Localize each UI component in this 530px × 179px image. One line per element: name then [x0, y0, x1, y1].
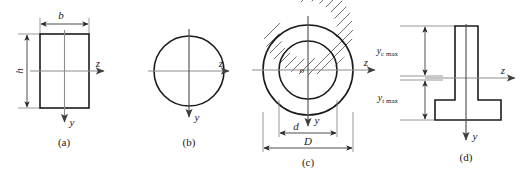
dimension-b-label: b — [58, 9, 64, 21]
dimension-d-label: d — [293, 120, 299, 132]
axis-z-label-a: z — [95, 57, 101, 69]
figure-sheet: b h z y (a) z — [0, 0, 530, 179]
panel-circle: z y (b) — [148, 29, 229, 149]
panel-rectangle: b h z y (a) — [13, 9, 104, 149]
panel-annulus: z y o d D (c) — [252, 0, 459, 169]
dimension-D-label: D — [303, 135, 312, 147]
axis-z-label-c: z — [363, 56, 369, 68]
axis-z-label-d: z — [500, 64, 506, 76]
dimension-yc-max-label: yc max — [376, 45, 399, 58]
dimension-h-label: h — [13, 68, 25, 74]
axis-y-label-b: y — [194, 111, 200, 123]
caption-b: (b) — [183, 136, 196, 149]
axis-y-label-a: y — [69, 116, 75, 128]
axis-y-label-c: y — [314, 114, 320, 126]
panel-tee-section: yc max yt max z y (d) — [376, 24, 515, 164]
annulus-center-label: o — [300, 65, 305, 75]
axis-y-label-d: y — [472, 130, 478, 142]
caption-a: (a) — [58, 136, 71, 149]
dimension-yt-max-label: yt max — [377, 92, 399, 105]
caption-c: (c) — [302, 156, 315, 169]
caption-d: (d) — [460, 151, 473, 164]
axis-z-label-b: z — [218, 57, 224, 69]
dimension-yt-max: yt max — [377, 80, 443, 120]
dimension-yc-max: yc max — [376, 26, 455, 76]
